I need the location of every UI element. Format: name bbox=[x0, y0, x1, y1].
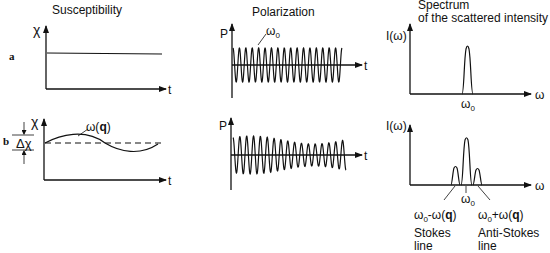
panel-b-susceptibility: χ t ω(q) Δχ bbox=[12, 114, 172, 188]
panel-a-polarization: P t ω0 bbox=[220, 24, 368, 98]
label-omega0: ω0 bbox=[266, 24, 280, 40]
label-omega0: ω0 bbox=[461, 192, 475, 208]
axis-label-t: t bbox=[364, 59, 368, 73]
label-omega0: ω0 bbox=[461, 97, 475, 113]
constant-susceptibility-line bbox=[47, 53, 162, 54]
axis-label-chi: χ bbox=[33, 22, 41, 38]
panel-a-spectrum: I(ω) ω ω0 bbox=[386, 24, 544, 113]
title-susceptibility: Susceptibility bbox=[52, 3, 122, 17]
label-anti-stokes-line-2: line bbox=[478, 239, 497, 253]
label-omega-q: ω(q) bbox=[86, 120, 111, 134]
axis-label-I-omega: I(ω) bbox=[386, 119, 407, 133]
axis-label-I-omega: I(ω) bbox=[386, 29, 407, 43]
label-stokes-line-2: line bbox=[414, 239, 433, 253]
axis-label-omega: ω bbox=[535, 179, 544, 193]
label-delta-chi: Δχ bbox=[16, 136, 32, 151]
stokes-peak bbox=[451, 167, 460, 186]
label-stokes-line-1: Stokes bbox=[414, 226, 451, 240]
title-polarization: Polarization bbox=[252, 5, 315, 19]
label-anti-stokes-freq: ω0+ω(q) bbox=[478, 208, 524, 224]
rayleigh-peak bbox=[462, 46, 473, 94]
axis-label-omega: ω bbox=[535, 88, 544, 102]
axis-label-chi: χ bbox=[31, 114, 39, 130]
label-stokes-freq: ω0-ω(q) bbox=[414, 208, 457, 224]
central-peak bbox=[461, 138, 472, 185]
stokes-leader bbox=[444, 186, 455, 200]
axis-label-P: P bbox=[220, 27, 228, 41]
panel-b-spectrum: I(ω) ω ω0 ω0-ω(q) ω0+ω(q) Stokes line An… bbox=[386, 119, 544, 253]
axis-label-t: t bbox=[364, 149, 368, 163]
light-scattering-diagram: Susceptibility Polarization Spectrum of … bbox=[0, 0, 550, 253]
title-spectrum-line2: of the scattered intensity bbox=[418, 11, 548, 25]
omega0-leader bbox=[258, 34, 266, 45]
anti-stokes-leader bbox=[478, 186, 490, 200]
anti-stokes-peak bbox=[473, 169, 482, 186]
panel-a-susceptibility: χ t bbox=[33, 22, 172, 97]
axis-label-t: t bbox=[168, 174, 172, 188]
row-label-a: a bbox=[9, 50, 15, 62]
panel-b-polarization: P t bbox=[219, 118, 368, 190]
axis-label-t: t bbox=[168, 83, 172, 97]
row-label-b: b bbox=[3, 135, 9, 147]
axis-label-P: P bbox=[219, 119, 227, 133]
label-anti-stokes-line-1: Anti-Stokes bbox=[478, 226, 539, 240]
oscillating-susceptibility-curve bbox=[45, 134, 158, 151]
